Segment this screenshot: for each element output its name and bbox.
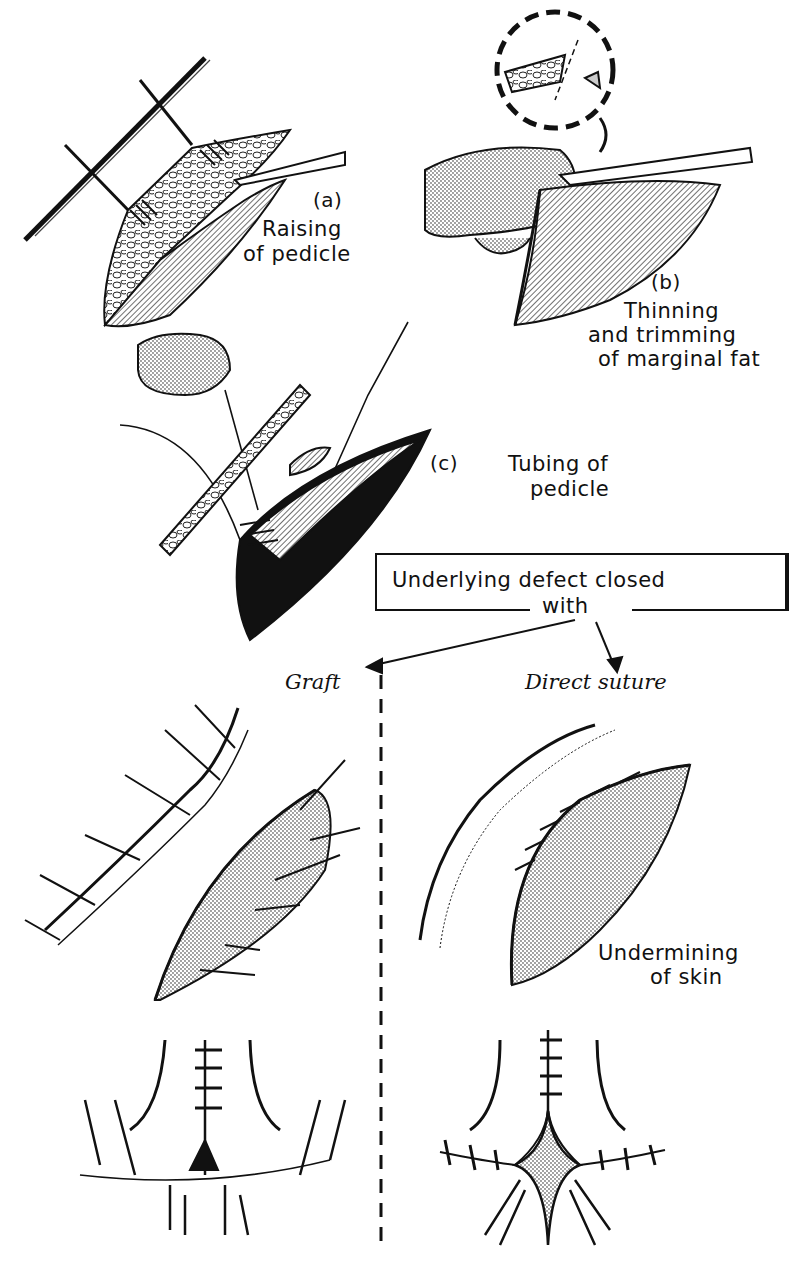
flow-box-line1: Underlying defect closed	[392, 569, 665, 591]
graft-closure-drawing	[25, 705, 360, 1000]
panel-b-marker: (b)	[651, 272, 681, 293]
direct-suture-branch-title: Direct suture	[525, 671, 667, 693]
flow-arrows	[367, 620, 622, 673]
surgical-illustration	[0, 0, 799, 1267]
graft-branch-title: Graft	[285, 671, 341, 693]
panel-b-drawing	[425, 12, 752, 325]
panel-a-caption-line1: Raising	[262, 218, 342, 240]
panel-b-caption-line3: of marginal fat	[598, 348, 760, 370]
flow-box-line2: with	[542, 595, 589, 617]
panel-a-caption-line2: of pedicle	[243, 243, 351, 265]
direct-suture-final-drawing	[440, 1030, 665, 1245]
flow-box-bottom-left	[375, 609, 530, 611]
panel-b-caption-line2: and trimming	[588, 324, 736, 346]
panel-c-caption-line1: Tubing of	[508, 453, 608, 475]
panel-b-caption-line1: Thinning	[624, 300, 719, 322]
panel-a-marker: (a)	[313, 190, 342, 211]
panel-c-caption-line2: pedicle	[530, 478, 609, 500]
panel-c-marker: (c)	[430, 453, 458, 474]
undermining-caption-line2: of skin	[650, 966, 723, 988]
graft-final-drawing	[80, 1040, 345, 1235]
flow-box-right-edge	[785, 553, 787, 611]
undermining-caption-line1: Undermining	[598, 942, 739, 964]
panel-a-drawing	[25, 58, 345, 326]
flow-box-bottom-right	[632, 609, 787, 611]
